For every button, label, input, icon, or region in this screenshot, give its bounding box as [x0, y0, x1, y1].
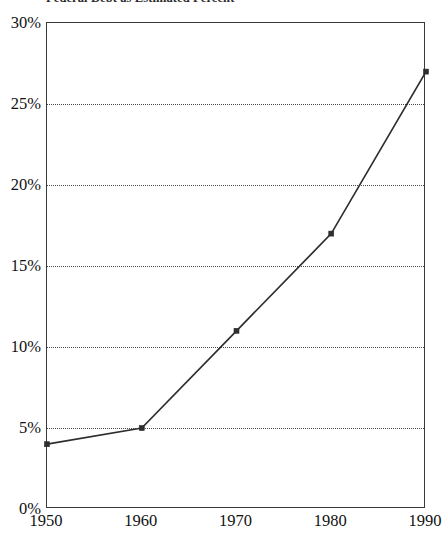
data-point-1990 [424, 69, 429, 74]
y-tick-label-15: 15% [0, 257, 41, 274]
data-point-1980 [329, 231, 334, 236]
x-tick-label-1960: 1960 [96, 512, 186, 530]
plot-area [46, 22, 425, 508]
y-tick-label-20: 20% [0, 176, 41, 193]
y-tick-label-10: 10% [0, 338, 41, 355]
series-line-federal-debt [47, 72, 426, 445]
x-tick-label-1990: 1990 [380, 512, 446, 530]
data-point-1950 [45, 442, 50, 447]
x-tick-label-1970: 1970 [191, 512, 281, 530]
y-tick-label-5: 5% [0, 419, 41, 436]
chart-figure: Federal Debt as Estimated Percent 30%25%… [0, 0, 446, 542]
y-tick-label-30: 30% [0, 14, 41, 31]
x-tick-label-1980: 1980 [285, 512, 375, 530]
data-point-1970 [234, 328, 239, 333]
series-markers [45, 69, 429, 447]
series-overlay [47, 23, 426, 509]
data-point-1960 [139, 426, 144, 431]
x-tick-label-1950: 1950 [1, 512, 91, 530]
y-tick-label-25: 25% [0, 95, 41, 112]
chart-title: Federal Debt as Estimated Percent [46, 0, 406, 5]
